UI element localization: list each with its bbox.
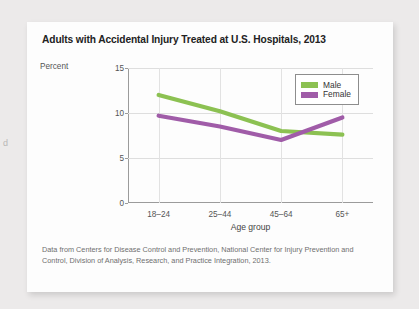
y-tick-label: 15 [115,64,124,73]
source-note: Data from Centers for Disease Control an… [42,244,380,267]
x-axis-label: Age group [128,222,373,232]
y-axis-label: Percent [40,62,68,71]
chart-legend: MaleFemale [295,74,359,105]
x-tick-label: 25–44 [208,210,231,219]
y-tick-label: 10 [115,109,124,118]
page-margin-fragment: d [3,138,9,148]
y-tick-label: 5 [119,154,124,163]
legend-swatch-male [301,82,318,88]
y-tick-mark [125,203,128,204]
legend-label: Female [323,90,351,98]
x-tick-label: 65+ [335,210,349,219]
x-tick-label: 18–24 [147,210,170,219]
chart-title: Adults with Accidental Injury Treated at… [42,34,326,45]
legend-item-female: Female [301,90,351,98]
legend-label: Male [323,81,341,89]
chart-card: Adults with Accidental Injury Treated at… [27,22,393,292]
x-tick-label: 45–64 [270,210,293,219]
legend-swatch-female [301,92,318,98]
y-tick-label: 0 [119,199,124,208]
legend-item-male: Male [301,81,351,89]
